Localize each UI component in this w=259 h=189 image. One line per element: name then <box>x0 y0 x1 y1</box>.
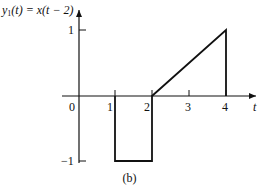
signal-plot <box>0 0 259 189</box>
y-axis-label: y1(t) = x(t − 2) <box>2 4 74 20</box>
x-tick-label-0: 0 <box>69 101 75 113</box>
x-tick-label-1: 1 <box>107 101 113 113</box>
x-axis-label: t <box>253 101 256 113</box>
x-tick-label-3: 3 <box>185 101 191 113</box>
x-tick-label-4: 4 <box>222 101 228 113</box>
y-tick-label-neg1: −1 <box>61 155 74 167</box>
x-tick-label-2: 2 <box>144 101 150 113</box>
y-tick-label-1: 1 <box>68 24 74 36</box>
figure-caption: (b) <box>0 172 259 184</box>
